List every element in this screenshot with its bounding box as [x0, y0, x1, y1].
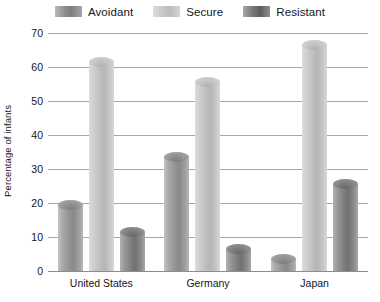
bar-united-states-avoidant — [58, 200, 83, 271]
legend-label-resistant: Resistant — [276, 6, 325, 18]
bar-group-germany — [160, 33, 256, 271]
legend-swatch-resistant-icon — [243, 6, 270, 17]
bar-cap — [302, 40, 327, 50]
bar-germany-avoidant — [164, 152, 189, 271]
bar-united-states-resistant — [120, 227, 145, 271]
bar-groups — [48, 33, 368, 271]
x-tick-label-japan: Japan — [267, 273, 363, 293]
y-axis-title-text: Percentage of infants — [2, 105, 13, 197]
bar-group-united-states — [53, 33, 149, 271]
y-tick-label-10: 10 — [31, 231, 43, 243]
bar-united-states-secure — [89, 57, 114, 271]
gridline-0 — [48, 271, 368, 272]
bar-body — [58, 205, 83, 271]
legend-label-avoidant: Avoidant — [88, 6, 133, 18]
legend-swatch-avoidant-icon — [55, 6, 82, 17]
bar-body — [333, 184, 358, 271]
bar-body — [302, 45, 327, 271]
y-tick-label-70: 70 — [31, 27, 43, 39]
bar-body — [89, 62, 114, 271]
chart-legend: Avoidant Secure Resistant — [0, 3, 380, 20]
y-tick-label-0: 0 — [37, 265, 43, 277]
bar-cap — [120, 227, 145, 237]
bar-body — [164, 157, 189, 271]
bar-body — [195, 82, 220, 271]
legend-entry-resistant: Resistant — [243, 6, 325, 18]
bar-japan-secure — [302, 40, 327, 271]
legend-label-secure: Secure — [186, 6, 223, 18]
bar-cap — [271, 254, 296, 264]
y-tick-label-60: 60 — [31, 61, 43, 73]
bar-japan-resistant — [333, 179, 358, 271]
bar-cap — [89, 57, 114, 67]
x-tick-label-germany: Germany — [160, 273, 256, 293]
legend-entry-avoidant: Avoidant — [55, 6, 133, 18]
y-tick-label-30: 30 — [31, 163, 43, 175]
legend-swatch-secure-icon — [153, 6, 180, 17]
y-tick-label-50: 50 — [31, 95, 43, 107]
bar-cap — [226, 244, 251, 254]
bar-chart: Avoidant Secure Resistant Percentage of … — [0, 0, 380, 302]
bar-germany-secure — [195, 77, 220, 271]
y-tick-label-20: 20 — [31, 197, 43, 209]
legend-entry-secure: Secure — [153, 6, 223, 18]
y-axis-title: Percentage of infants — [0, 0, 15, 302]
bar-japan-avoidant — [271, 254, 296, 271]
bar-germany-resistant — [226, 244, 251, 271]
bar-cap — [58, 200, 83, 210]
y-tick-label-40: 40 — [31, 129, 43, 141]
bar-body — [120, 232, 145, 271]
x-tick-label-united-states: United States — [53, 273, 149, 293]
x-axis-labels: United StatesGermanyJapan — [48, 273, 368, 293]
bar-group-japan — [267, 33, 363, 271]
plot-area: 706050403020100 — [48, 33, 368, 271]
